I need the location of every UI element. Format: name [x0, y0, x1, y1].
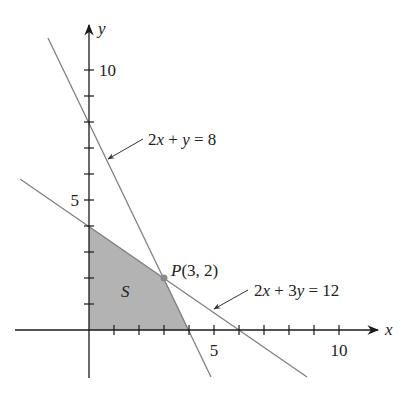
point-p-label: P(3, 2)	[170, 261, 218, 280]
x-tick-label-5: 5	[210, 341, 219, 360]
region-s-label: S	[121, 282, 130, 301]
diagram-canvas: 5 10 5 10 x y P(3, 2) S 2x + y = 8 2x + …	[0, 0, 414, 395]
y-tick-label-5: 5	[71, 191, 80, 210]
arrow-to-line-2x-plus-3y	[214, 290, 248, 309]
y-tick-label-10: 10	[99, 61, 116, 80]
point-p-marker	[161, 275, 168, 282]
y-axis-label: y	[96, 19, 106, 38]
arrow-to-line-2x-plus-y	[108, 139, 143, 159]
plot-svg: 5 10 5 10 x y P(3, 2) S 2x + y = 8 2x + …	[0, 0, 414, 395]
x-axis-label: x	[384, 320, 393, 339]
x-tick-label-10: 10	[331, 341, 348, 360]
label-2x-plus-y-eq-8: 2x + y = 8	[148, 130, 216, 149]
label-2x-plus-3y-eq-12: 2x + 3y = 12	[254, 281, 339, 300]
